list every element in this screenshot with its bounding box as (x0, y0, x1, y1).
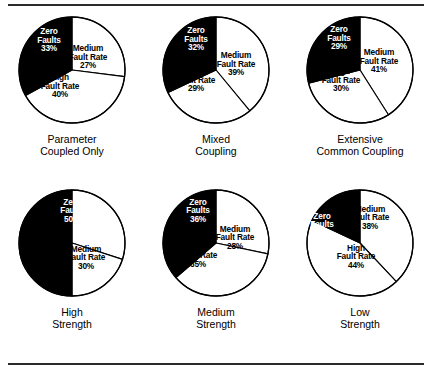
pie-chart-cell: ZeroFaults36%MediumFault Rate28%HighFaul… (144, 187, 288, 360)
pie-chart-cell: ZeroFaults32%MediumFault Rate39%HighFaul… (144, 14, 288, 187)
chart-caption: LowStrength (340, 306, 380, 331)
chart-caption-line: Coupling (195, 145, 236, 157)
pie-slice-zero (19, 190, 72, 296)
figure-frame: ZeroFaults33%MediumFault Rate27%HighFaul… (0, 0, 432, 380)
pie-wrap: ZeroFaults29%MediumFault Rate41%HighFaul… (304, 14, 416, 126)
pie-svg (160, 187, 272, 299)
chart-caption: MediumStrength (196, 306, 236, 331)
chart-caption-line: Low (340, 306, 380, 318)
chart-caption: ExtensiveCommon Coupling (317, 133, 404, 158)
chart-caption-line: Mixed (195, 133, 236, 145)
chart-caption: HighStrength (52, 306, 92, 331)
pie-wrap: ZeroFaults50%MediumFault Rate30%HighFaul… (16, 187, 128, 299)
pie-svg (304, 14, 416, 126)
pie-wrap: ZeroFaults18%MediumFault Rate38%HighFaul… (304, 187, 416, 299)
pie-slice-medium (72, 17, 125, 77)
pie-chart-cell: ZeroFaults18%MediumFault Rate38%HighFaul… (288, 187, 432, 360)
chart-caption-line: Extensive (317, 133, 404, 145)
chart-caption-line: Strength (196, 318, 236, 330)
bottom-rule (8, 363, 424, 365)
pie-chart-cell: ZeroFaults50%MediumFault Rate30%HighFaul… (0, 187, 144, 360)
pie-wrap: ZeroFaults32%MediumFault Rate39%HighFaul… (160, 14, 272, 126)
chart-caption-line: Strength (52, 318, 92, 330)
pie-svg (160, 14, 272, 126)
chart-caption-line: High (52, 306, 92, 318)
chart-caption-line: Parameter (40, 133, 104, 145)
pie-wrap: ZeroFaults36%MediumFault Rate28%HighFaul… (160, 187, 272, 299)
pie-chart-cell: ZeroFaults33%MediumFault Rate27%HighFaul… (0, 14, 144, 187)
pie-svg (16, 14, 128, 126)
chart-caption: MixedCoupling (195, 133, 236, 158)
pie-wrap: ZeroFaults33%MediumFault Rate27%HighFaul… (16, 14, 128, 126)
chart-caption-line: Medium (196, 306, 236, 318)
chart-caption-line: Coupled Only (40, 145, 104, 157)
chart-caption: ParameterCoupled Only (40, 133, 104, 158)
chart-caption-line: Common Coupling (317, 145, 404, 157)
chart-caption-line: Strength (340, 318, 380, 330)
charts-grid: ZeroFaults33%MediumFault Rate27%HighFaul… (0, 14, 432, 359)
pie-svg (304, 187, 416, 299)
pie-chart-cell: ZeroFaults29%MediumFault Rate41%HighFaul… (288, 14, 432, 187)
top-rule (8, 4, 424, 6)
pie-svg (16, 187, 128, 299)
